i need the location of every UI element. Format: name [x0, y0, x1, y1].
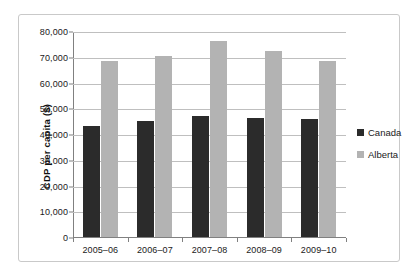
- bar-canada[interactable]: [192, 116, 209, 237]
- x-tick-mark: [291, 238, 292, 242]
- bar-group: [73, 31, 128, 237]
- bar-canada[interactable]: [137, 121, 154, 237]
- legend-swatch-icon: [357, 129, 364, 136]
- bar-alberta[interactable]: [210, 41, 227, 237]
- y-tick-label: 50,000: [40, 104, 68, 114]
- y-tick-label: 10,000: [40, 207, 68, 217]
- bar-alberta[interactable]: [101, 61, 118, 237]
- y-tick-label: 40,000: [40, 130, 68, 140]
- y-tick-label: 70,000: [40, 53, 68, 63]
- y-tick-label: 30,000: [40, 156, 68, 166]
- y-tick-label: 60,000: [40, 79, 68, 89]
- bar-canada[interactable]: [301, 119, 318, 237]
- legend-swatch-icon: [357, 151, 364, 158]
- bar-alberta[interactable]: [265, 51, 282, 237]
- bar-group: [237, 31, 292, 237]
- plot-area: 010,00020,00030,00040,00050,00060,00070,…: [73, 32, 346, 238]
- y-tick-label: 0: [63, 233, 68, 243]
- x-tick-label: 2009–10: [301, 245, 337, 255]
- x-tick-mark: [346, 238, 347, 242]
- legend-item-label: Alberta: [368, 149, 398, 160]
- x-axis-line: [73, 237, 346, 238]
- x-tick-label: 2007–08: [192, 245, 228, 255]
- bar-alberta[interactable]: [155, 56, 172, 237]
- bar-alberta[interactable]: [319, 61, 336, 237]
- x-tick-mark: [182, 238, 183, 242]
- x-tick-label: 2005–06: [82, 245, 118, 255]
- legend-item-alberta[interactable]: Alberta: [357, 149, 401, 160]
- x-tick-mark: [237, 238, 238, 242]
- bar-group: [182, 31, 237, 237]
- x-tick-mark: [128, 238, 129, 242]
- y-tick-label: 20,000: [40, 182, 68, 192]
- y-tick-label: 80,000: [40, 27, 68, 37]
- chart-legend: CanadaAlberta: [357, 127, 401, 171]
- x-tick-label: 2008–09: [246, 245, 282, 255]
- x-tick-label: 2006–07: [137, 245, 173, 255]
- bar-canada[interactable]: [247, 118, 264, 237]
- legend-item-canada[interactable]: Canada: [357, 127, 401, 138]
- bar-canada[interactable]: [83, 126, 100, 237]
- legend-item-label: Canada: [368, 127, 401, 138]
- chart-container: CDP per capita ($) 010,00020,00030,00040…: [18, 14, 400, 262]
- bar-group: [128, 31, 183, 237]
- y-axis-title-label: CDP per capita ($): [42, 103, 53, 188]
- bar-group: [291, 31, 346, 237]
- x-tick-mark: [73, 238, 74, 242]
